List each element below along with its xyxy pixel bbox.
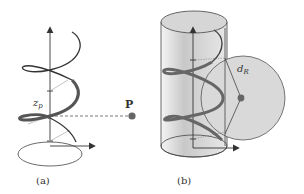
point-p-label: P: [125, 98, 133, 111]
helix-thick: [20, 80, 79, 120]
sphere-center-point: [238, 95, 245, 102]
radius-line: [50, 130, 70, 141]
height-label: zp: [32, 97, 43, 110]
panel-a: P zp (a): [18, 28, 136, 186]
panel-b: dR (b): [161, 11, 285, 186]
caption-a: (a): [36, 175, 50, 186]
figure: P zp (a) dR (b): [0, 0, 304, 194]
point-p: [128, 112, 135, 119]
caption-b: (b): [177, 175, 191, 186]
helix-thin: [22, 32, 80, 80]
cylinder-top: [161, 11, 227, 33]
helix-thin-lower: [50, 118, 76, 142]
radius-line: [50, 80, 68, 91]
